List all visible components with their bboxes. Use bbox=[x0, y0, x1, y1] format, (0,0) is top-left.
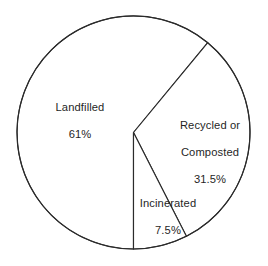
pie-label-incinerated-value: 7.5% bbox=[122, 224, 214, 237]
pie-label-incinerated: Incinerated 7.5% bbox=[122, 184, 214, 251]
pie-label-landfilled-value: 61% bbox=[26, 128, 134, 141]
pie-label-landfilled-name: Landfilled bbox=[26, 101, 134, 114]
pie-label-landfilled: Landfilled 61% bbox=[26, 88, 134, 155]
pie-label-recycled-line-2: Composted bbox=[162, 146, 258, 159]
pie-chart-figure: Landfilled 61% Recycled or Composted 31.… bbox=[0, 0, 268, 266]
pie-label-incinerated-name: Incinerated bbox=[122, 197, 214, 210]
pie-label-recycled-line-1: Recycled or bbox=[162, 119, 258, 132]
